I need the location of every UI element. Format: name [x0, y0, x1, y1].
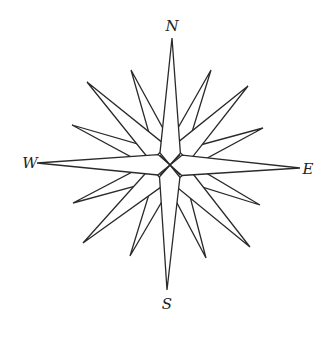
east-label: E — [302, 160, 314, 178]
compass-rose-svg: N S E W — [0, 0, 329, 339]
compass-rose-diagram: N S E W — [0, 0, 329, 339]
cardinal-point-e — [170, 155, 300, 175]
cardinal-point-n — [160, 38, 180, 165]
cardinal-point-s — [160, 165, 180, 290]
west-label: W — [22, 154, 39, 172]
south-label: S — [162, 295, 172, 313]
cardinal-point-w — [37, 155, 170, 175]
north-label: N — [164, 17, 179, 35]
